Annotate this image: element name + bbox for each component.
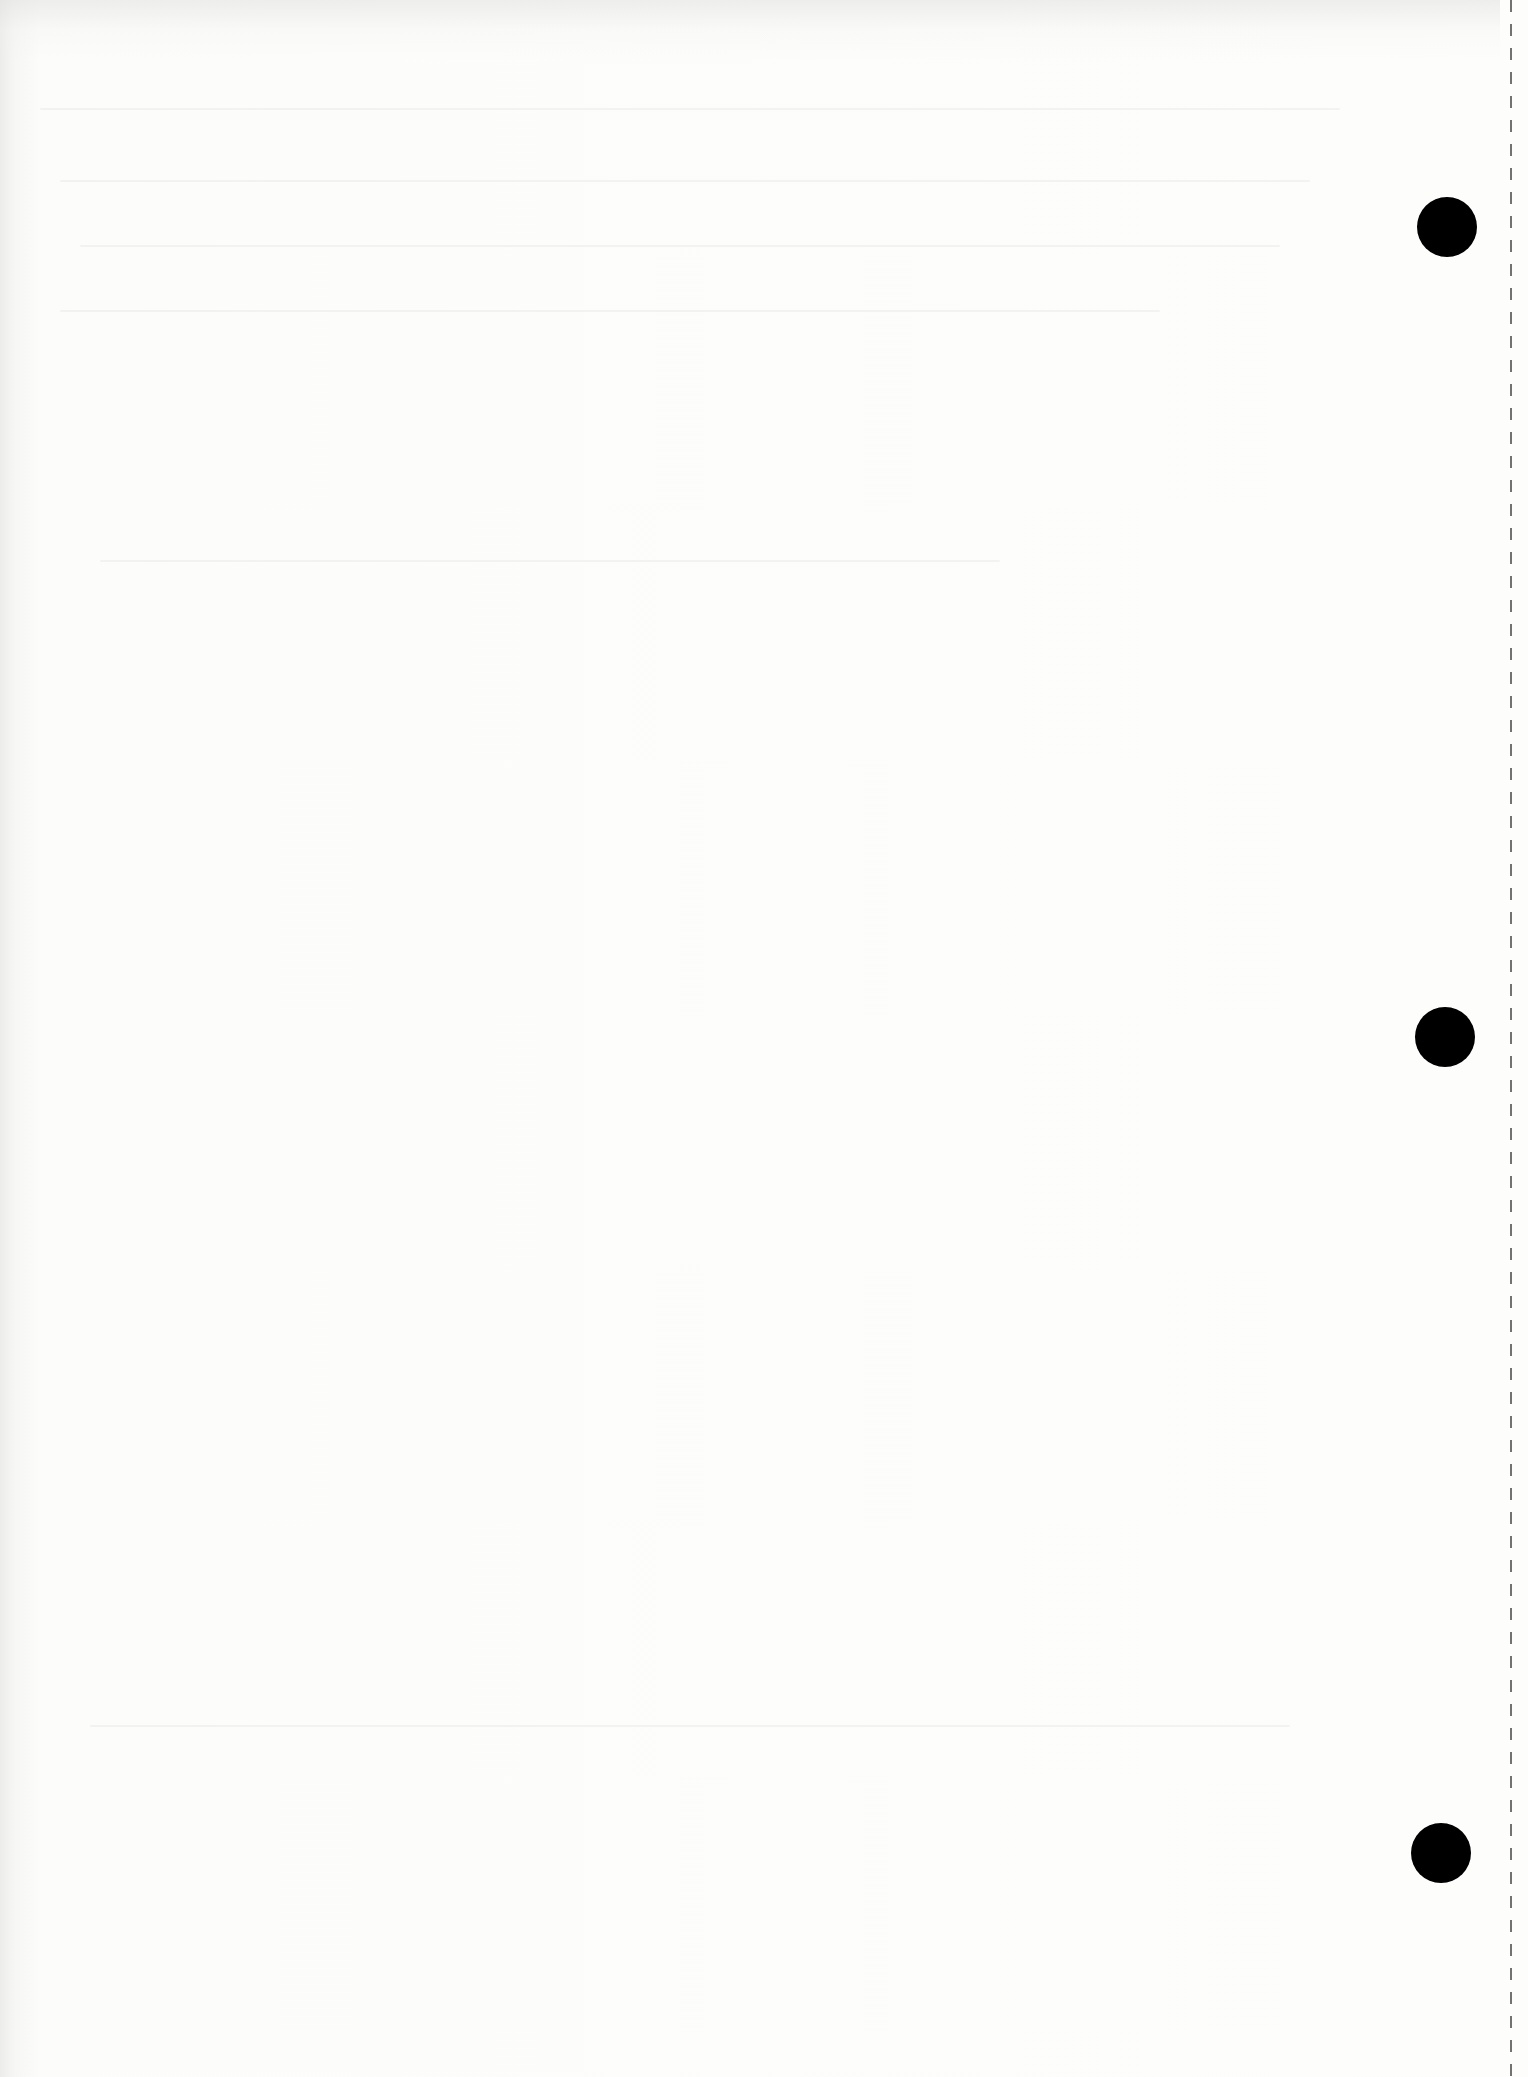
bleed-through-trace <box>100 560 1000 562</box>
bleed-through-trace <box>90 1725 1290 1727</box>
bleed-through-trace <box>60 310 1160 312</box>
scanned-page <box>0 0 1528 2077</box>
perforation-line <box>1510 0 1512 2077</box>
punch-hole-middle <box>1415 1007 1475 1067</box>
punch-hole-bottom <box>1411 1823 1471 1883</box>
bleed-through-trace <box>60 180 1310 182</box>
bleed-through-trace <box>40 108 1340 110</box>
scan-shadow <box>0 0 1500 60</box>
punch-hole-top <box>1417 197 1477 257</box>
bleed-through-trace <box>80 245 1280 247</box>
